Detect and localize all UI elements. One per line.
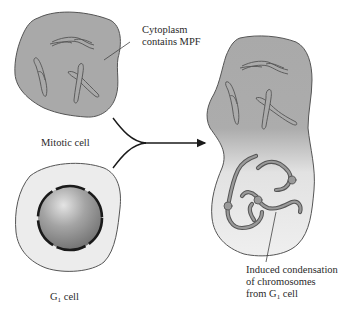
mitotic-cytoplasm bbox=[15, 12, 121, 117]
label-mitotic-cell: Mitotic cell bbox=[41, 137, 90, 149]
label-induced-line3-prefix: from G bbox=[246, 288, 277, 299]
centromere-icon bbox=[254, 196, 262, 204]
label-cytoplasm-line2: contains MPF bbox=[142, 36, 201, 48]
centromere-icon bbox=[224, 202, 232, 210]
label-induced-line2: of chromosomes bbox=[246, 276, 338, 288]
label-induced-line3-suffix: cell bbox=[280, 288, 298, 299]
fused-cytoplasm bbox=[207, 36, 314, 256]
label-cytoplasm: Cytoplasm contains MPF bbox=[142, 24, 201, 48]
label-induced-line3: from G1 cell bbox=[246, 288, 338, 303]
label-mitotic-cell-text: Mitotic cell bbox=[41, 137, 90, 148]
fused-cell bbox=[207, 36, 314, 256]
fusion-arrow-icon bbox=[113, 118, 205, 168]
label-g1-prefix: G bbox=[50, 291, 58, 302]
label-cytoplasm-line1: Cytoplasm bbox=[142, 24, 201, 36]
label-g1-cell: G1 cell bbox=[50, 291, 79, 306]
g1-cell bbox=[16, 163, 121, 271]
mitotic-cell bbox=[15, 12, 121, 117]
centromere-icon bbox=[288, 176, 296, 184]
label-induced-condensation: Induced condensation of chromosomes from… bbox=[246, 264, 338, 303]
label-induced-line1: Induced condensation bbox=[246, 264, 338, 276]
label-g1-suffix: cell bbox=[61, 291, 79, 302]
